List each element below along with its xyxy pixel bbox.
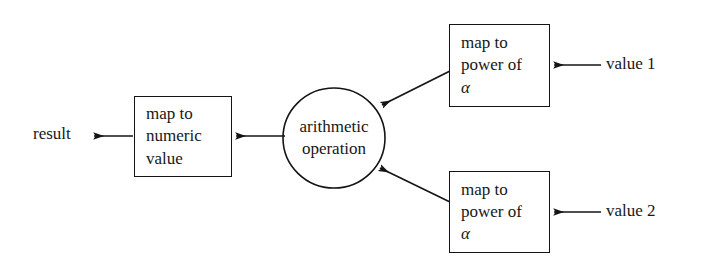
- node-line: power of: [461, 201, 522, 223]
- node-line: map to: [146, 103, 202, 125]
- node-map-to-numeric-value: map to numeric value: [134, 96, 232, 177]
- node-line: value: [146, 148, 202, 170]
- node-line: operation: [302, 138, 366, 160]
- alpha-symbol: α: [461, 77, 522, 99]
- value-2-label: value 2: [606, 201, 656, 221]
- node-map-to-numeric-value-text: map to numeric value: [135, 103, 202, 169]
- node-arithmetic-operation: arithmetic operation: [283, 88, 385, 188]
- node-map-to-power-of-alpha-top: map to power of α: [449, 24, 550, 107]
- value-1-label: value 1: [606, 54, 656, 74]
- node-line: numeric: [146, 125, 202, 147]
- node-map-to-power-of-alpha-bottom: map to power of α: [449, 171, 550, 253]
- node-line: arithmetic: [300, 116, 369, 138]
- alpha-symbol: α: [461, 223, 522, 245]
- node-map-to-power-of-alpha-bottom-text: map to power of α: [450, 179, 522, 245]
- node-line: map to: [461, 179, 522, 201]
- result-label: result: [33, 124, 71, 144]
- diagram-canvas: result map to numeric value arithmetic o…: [0, 0, 703, 271]
- node-map-to-power-of-alpha-top-text: map to power of α: [450, 32, 522, 98]
- node-line: power of: [461, 54, 522, 76]
- edge-power2-to-operation: [380, 168, 450, 202]
- node-line: map to: [461, 32, 522, 54]
- edge-power1-to-operation: [382, 71, 450, 105]
